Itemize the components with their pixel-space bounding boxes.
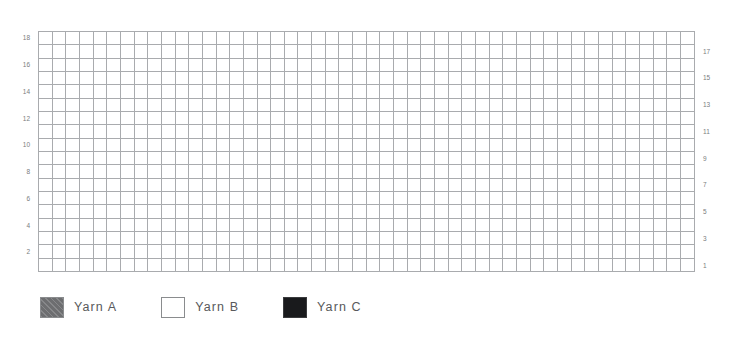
stitch-cell [107, 245, 121, 258]
stitch-cell [216, 231, 230, 244]
stitch-cell [598, 231, 612, 244]
stitch-cell [312, 191, 326, 204]
stitch-cell [52, 85, 66, 98]
stitch-cell [653, 205, 667, 218]
stitch-cell [257, 191, 271, 204]
stitch-cell [230, 205, 244, 218]
stitch-cell [407, 125, 421, 138]
stitch-cell [394, 218, 408, 231]
stitch-cell [585, 125, 599, 138]
colorwork-chart-page: 18161412108642 1715131197531 Yarn A Yarn… [0, 0, 740, 339]
stitch-row [39, 178, 695, 191]
stitch-cell [134, 45, 148, 58]
stitch-cell [353, 151, 367, 164]
stitch-cell [544, 138, 558, 151]
row-number-label: 13 [703, 101, 710, 108]
stitch-cell [435, 258, 449, 271]
stitch-cell [489, 98, 503, 111]
stitch-cell [612, 231, 626, 244]
stitch-cell [120, 151, 134, 164]
stitch-cell [639, 71, 653, 84]
stitch-cell [598, 245, 612, 258]
stitch-cell [421, 258, 435, 271]
stitch-cell [516, 58, 530, 71]
stitch-cell [325, 218, 339, 231]
stitch-cell [380, 138, 394, 151]
legend-item-yarn-a: Yarn A [40, 297, 117, 318]
stitch-cell [148, 58, 162, 71]
stitch-cell [380, 191, 394, 204]
stitch-cell [667, 245, 681, 258]
stitch-cell [448, 191, 462, 204]
stitch-cell [298, 32, 312, 45]
stitch-cell [189, 245, 203, 258]
stitch-cell [134, 218, 148, 231]
stitch-cell [353, 165, 367, 178]
stitch-cell [189, 45, 203, 58]
stitch-cell [353, 191, 367, 204]
stitch-cell [312, 98, 326, 111]
stitch-cell [366, 111, 380, 124]
stitch-cell [407, 231, 421, 244]
stitch-cell [530, 58, 544, 71]
stitch-cell [148, 258, 162, 271]
stitch-cell [230, 45, 244, 58]
legend-swatch-yarn-a [40, 297, 64, 318]
stitch-cell [243, 245, 257, 258]
stitch-cell [202, 258, 216, 271]
stitch-cell [530, 125, 544, 138]
stitch-cell [516, 191, 530, 204]
stitch-cell [216, 191, 230, 204]
stitch-cell [435, 205, 449, 218]
stitch-cell [503, 178, 517, 191]
stitch-cell [639, 85, 653, 98]
stitch-cell [421, 218, 435, 231]
stitch-cell [530, 138, 544, 151]
stitch-cell [216, 245, 230, 258]
stitch-cell [175, 178, 189, 191]
stitch-cell [544, 191, 558, 204]
stitch-cell [435, 191, 449, 204]
stitch-cell [284, 231, 298, 244]
stitch-cell [626, 45, 640, 58]
stitch-cell [161, 125, 175, 138]
stitch-cell [585, 205, 599, 218]
row-number-label: 11 [703, 128, 710, 135]
stitch-cell [161, 258, 175, 271]
stitch-cell [653, 58, 667, 71]
stitch-cell [407, 178, 421, 191]
stitch-cell [612, 71, 626, 84]
stitch-cell [380, 85, 394, 98]
stitch-cell [516, 45, 530, 58]
stitch-cell [93, 245, 107, 258]
stitch-cell [161, 71, 175, 84]
stitch-cell [680, 258, 694, 271]
stitch-grid [38, 31, 695, 272]
stitch-cell [571, 98, 585, 111]
stitch-cell [339, 178, 353, 191]
stitch-cell [257, 258, 271, 271]
stitch-cell [161, 85, 175, 98]
stitch-cell [216, 258, 230, 271]
stitch-cell [325, 125, 339, 138]
stitch-cell [52, 71, 66, 84]
stitch-cell [503, 138, 517, 151]
legend-item-yarn-c: Yarn C [283, 297, 362, 318]
stitch-cell [571, 125, 585, 138]
stitch-cell [585, 71, 599, 84]
stitch-cell [489, 125, 503, 138]
stitch-cell [612, 98, 626, 111]
stitch-cell [66, 165, 80, 178]
stitch-cell [530, 32, 544, 45]
stitch-cell [79, 165, 93, 178]
stitch-cell [516, 71, 530, 84]
stitch-cell [476, 231, 490, 244]
stitch-cell [407, 138, 421, 151]
stitch-cell [366, 58, 380, 71]
stitch-cell [530, 178, 544, 191]
stitch-cell [435, 178, 449, 191]
stitch-cell [79, 71, 93, 84]
stitch-cell [394, 151, 408, 164]
stitch-cell [653, 111, 667, 124]
stitch-cell [312, 71, 326, 84]
